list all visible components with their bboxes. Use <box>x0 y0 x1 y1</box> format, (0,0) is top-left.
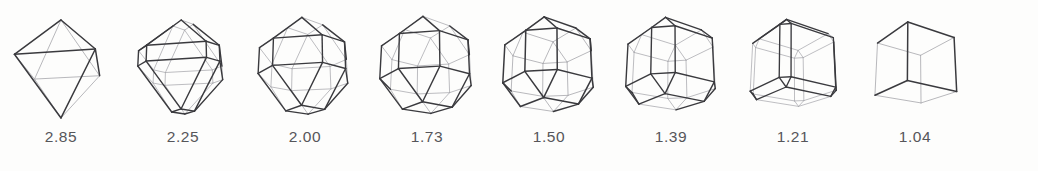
shape-value-label: 1.39 <box>655 129 688 145</box>
shape-value-label: 1.73 <box>411 129 444 145</box>
polyhedron-slightly-truncated-octahedron <box>122 0 244 128</box>
shape-value-label: 2.85 <box>45 129 78 145</box>
shape-cell: 2.00 <box>244 0 366 171</box>
shape-cell: 2.85 <box>0 0 122 171</box>
shape-cell: 1.21 <box>732 0 854 171</box>
shape-cell: 1.39 <box>610 0 732 171</box>
polyhedron-slightly-truncated-cube <box>732 0 854 128</box>
shape-cell: 1.73 <box>366 0 488 171</box>
shape-value-label: 1.21 <box>777 129 810 145</box>
polyhedron-near-truncated-octahedron <box>366 0 488 128</box>
shape-value-label: 1.04 <box>899 129 932 145</box>
shape-value-label: 2.25 <box>167 129 200 145</box>
shape-value-label: 1.50 <box>533 129 566 145</box>
polyhedra-series-figure: 2.852.252.001.731.501.391.211.04 <box>0 0 1038 171</box>
polyhedron-cuboctahedron <box>488 0 610 128</box>
shape-cell: 1.50 <box>488 0 610 171</box>
polyhedron-truncated-octahedron <box>244 0 366 128</box>
polyhedron-truncated-cube-intermediate <box>610 0 732 128</box>
shape-cell: 1.04 <box>854 0 976 171</box>
polyhedron-octahedron <box>0 0 122 128</box>
polyhedron-cube <box>854 0 976 128</box>
shape-value-label: 2.00 <box>289 129 322 145</box>
polyhedra-series-row: 2.852.252.001.731.501.391.211.04 <box>0 0 1038 171</box>
shape-cell: 2.25 <box>122 0 244 171</box>
